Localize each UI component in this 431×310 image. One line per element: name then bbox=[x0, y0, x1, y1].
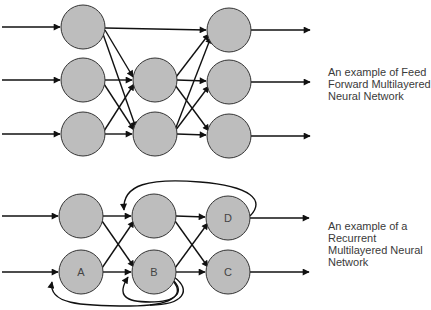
caption-line: Multilayered Neural bbox=[328, 244, 423, 256]
recurrent-caption: An example of a Recurrent Multilayered N… bbox=[328, 220, 423, 268]
caption-line: Neural Network bbox=[328, 90, 431, 102]
node-f2a bbox=[133, 58, 177, 102]
node-label-d: D bbox=[224, 212, 232, 224]
caption-line: Forward Multilayered bbox=[328, 78, 431, 90]
node-label-a: A bbox=[77, 266, 85, 278]
node-f3b bbox=[207, 60, 251, 104]
edge bbox=[177, 134, 206, 135]
feedforward-caption: An example of Feed Forward Multilayered … bbox=[328, 66, 431, 102]
node-f2b bbox=[133, 112, 177, 156]
node-f1a bbox=[61, 5, 105, 49]
feedforward-nodes bbox=[61, 5, 251, 158]
node-f1b bbox=[61, 58, 105, 102]
edge bbox=[175, 37, 211, 130]
caption-line: An example of a bbox=[328, 220, 423, 232]
recurrent-nodes bbox=[59, 194, 250, 294]
edge bbox=[176, 216, 205, 217]
node-r2a bbox=[132, 194, 176, 238]
node-label-b: B bbox=[150, 266, 157, 278]
edge bbox=[103, 34, 136, 128]
node-f3c bbox=[207, 114, 251, 158]
node-f3a bbox=[207, 8, 251, 52]
edge bbox=[105, 28, 206, 30]
edge bbox=[177, 80, 206, 81]
node-label-c: C bbox=[224, 266, 232, 278]
node-f1c bbox=[61, 112, 105, 156]
node-r1a bbox=[59, 194, 103, 238]
caption-line: An example of Feed bbox=[328, 66, 431, 78]
caption-line: Recurrent bbox=[328, 232, 423, 244]
caption-line: Network bbox=[328, 256, 423, 268]
